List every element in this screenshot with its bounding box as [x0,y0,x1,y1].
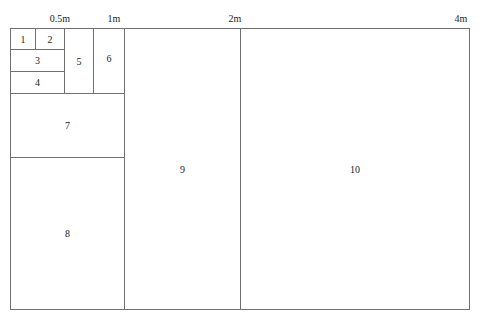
cell-label: 2 [48,34,53,45]
cell-3: 3 [10,49,65,72]
cell-label: 8 [65,228,70,239]
cell-8: 8 [10,157,125,310]
scale-label-0-5m: 0.5m [50,13,70,24]
cell-label: 6 [107,53,112,64]
scale-label-2m: 2m [229,13,242,24]
cell-10: 10 [240,28,470,310]
cell-label: 4 [35,77,40,88]
cell-9: 9 [124,28,241,310]
cell-label: 3 [35,55,40,66]
cell-2: 2 [35,28,65,50]
cell-label: 7 [65,120,70,131]
cell-label: 10 [350,164,360,175]
scale-label-4m: 4m [455,13,468,24]
scale-label-1m: 1m [108,13,121,24]
cell-label: 5 [77,56,82,67]
cell-label: 9 [180,164,185,175]
cell-5: 5 [64,28,94,94]
cell-1: 1 [10,28,36,50]
cell-7: 7 [10,93,125,158]
cell-6: 6 [93,28,125,94]
cell-label: 1 [21,34,26,45]
cell-4: 4 [10,71,65,94]
